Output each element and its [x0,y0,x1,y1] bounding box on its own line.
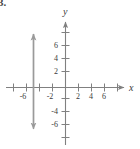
coordinate-plane-figure: 3. [0,0,140,149]
x-tick-label-4: 4 [89,92,93,101]
y-tick-label-neg6: -6 [51,120,58,129]
x-tick-label-2: 2 [76,92,80,101]
y-tick-label-neg4: -4 [51,107,58,116]
y-axis-label: y [62,6,68,17]
y-tick-label-6: 6 [54,41,58,50]
y-axis [62,22,70,145]
x-tick-label-6: 6 [102,92,106,101]
coordinate-plane-svg: y x -6 -2 2 4 6 6 4 2 -4 -6 [0,0,140,149]
x-tick-label-neg6: -6 [20,92,27,101]
y-tick-label-4: 4 [54,54,58,63]
y-tick-label-2: 2 [54,67,58,76]
x-tick-label-neg2: -2 [47,92,54,101]
x-axis-label: x [128,82,134,93]
